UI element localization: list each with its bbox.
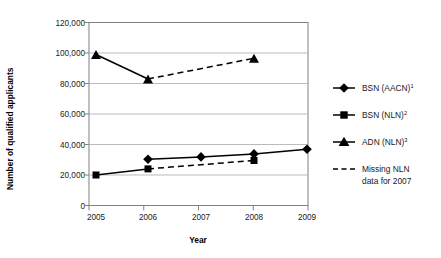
series-adn-nln bbox=[91, 50, 259, 84]
legend-entry-bsn-aacn[interactable]: BSN (AACN)1 bbox=[333, 83, 414, 93]
data-point-bsn-nln-2006 bbox=[145, 165, 152, 172]
chart-figure: Number of qualified applicants 120,000 1… bbox=[0, 0, 441, 258]
data-point-bsn-aacn-2007 bbox=[196, 152, 206, 162]
data-point-bsn-nln-2005 bbox=[93, 172, 100, 179]
legend-label-bsn-aacn: BSN (AACN)1 bbox=[362, 83, 414, 93]
square-icon bbox=[340, 111, 347, 118]
y-tick-label-120000: 120,000 bbox=[55, 19, 85, 28]
y-tick-label-40000: 40,000 bbox=[60, 141, 85, 150]
x-tick-labels: 2005 2006 2007 2008 2009 bbox=[87, 213, 317, 222]
legend-entry-missing-data[interactable]: Missing NLN data for 2007 bbox=[333, 164, 412, 186]
legend-entry-adn-nln[interactable]: ADN (NLN)3 bbox=[333, 137, 407, 147]
y-axis-title: Number of qualified applicants bbox=[5, 67, 15, 190]
x-tick-label-2009: 2009 bbox=[298, 213, 317, 222]
series-adn-nln-segment-solid bbox=[96, 55, 148, 80]
data-point-bsn-aacn-2006 bbox=[143, 154, 153, 164]
legend-label-missing-data-line2: data for 2007 bbox=[362, 176, 412, 186]
line-chart-svg: Number of qualified applicants 120,000 1… bbox=[0, 0, 441, 258]
series-bsn-nln-segment-dashed bbox=[148, 161, 254, 169]
y-tick-labels: 120,000 100,000 80,000 60,000 40,000 20,… bbox=[55, 19, 85, 211]
data-point-bsn-aacn-2009 bbox=[302, 145, 312, 155]
x-tick-label-2006: 2006 bbox=[139, 213, 158, 222]
x-axis-title: Year bbox=[189, 235, 207, 245]
legend-label-missing-data-line1: Missing NLN bbox=[362, 164, 409, 174]
legend-label-adn-nln: ADN (NLN)3 bbox=[362, 137, 407, 147]
series-bsn-aacn-line bbox=[148, 149, 307, 159]
x-tick-label-2008: 2008 bbox=[245, 213, 264, 222]
legend-entry-bsn-nln[interactable]: BSN (NLN)2 bbox=[333, 110, 407, 120]
y-tick-label-60000: 60,000 bbox=[60, 110, 85, 119]
legend-label-bsn-nln: BSN (NLN)2 bbox=[362, 110, 407, 120]
series-bsn-nln-segment-solid bbox=[96, 169, 148, 175]
chart-legend: BSN (AACN)1 BSN (NLN)2 ADN (NLN)3 Missin… bbox=[333, 83, 414, 186]
x-tick-label-2007: 2007 bbox=[192, 213, 211, 222]
x-tick-marks bbox=[89, 206, 308, 211]
data-point-adn-2005 bbox=[91, 50, 101, 59]
y-tick-label-80000: 80,000 bbox=[60, 80, 85, 89]
series-bsn-aacn bbox=[143, 145, 312, 165]
x-tick-label-2005: 2005 bbox=[87, 213, 106, 222]
series-adn-nln-segment-dashed bbox=[148, 58, 254, 79]
y-tick-label-100000: 100,000 bbox=[55, 49, 85, 58]
y-tick-label-20000: 20,000 bbox=[60, 171, 85, 180]
diamond-icon bbox=[339, 83, 349, 93]
